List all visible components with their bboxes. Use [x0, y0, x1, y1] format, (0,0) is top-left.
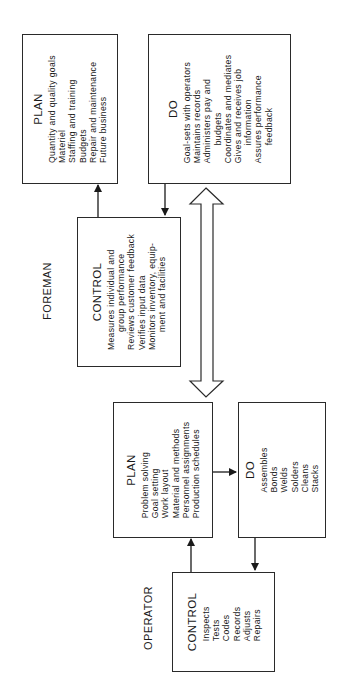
- operator-plan-items: Problem solving Goal setting Work layout…: [140, 422, 201, 519]
- foreman-plan-box: PLAN Quantity and quality goals Materiel…: [22, 34, 118, 184]
- operator-do-items: Assembles Bonds Welds Solders Cleans Sta…: [259, 447, 320, 492]
- double-block-arrow-icon: [190, 188, 223, 397]
- operator-label: OPERATOR: [142, 586, 154, 650]
- operator-plan-title: PLAN: [125, 454, 137, 485]
- foreman-plan-title: PLAN: [32, 93, 44, 124]
- foreman-control-title: CONTROL: [91, 263, 103, 321]
- operator-do-title: DO: [244, 461, 256, 479]
- foreman-do-items: Goal-sets with operators Maintains recor…: [181, 55, 273, 164]
- foreman-control-items: Measures individual and group performanc…: [106, 234, 167, 350]
- operator-control-title: CONTROL: [185, 593, 197, 651]
- operator-do-box: DO Assembles Bonds Welds Solders Cleans …: [238, 402, 326, 538]
- operator-control-items: Inspects Tests Codes Records Adjusts Rep…: [200, 606, 261, 651]
- foreman-control-box: CONTROL Measures individual and group pe…: [77, 217, 181, 367]
- foreman-do-box: DO Goal-sets with operators Maintains re…: [148, 34, 291, 184]
- foreman-plan-items: Quantity and quality goals Materiel Staf…: [47, 55, 108, 163]
- foreman-label: FOREMAN: [41, 262, 53, 320]
- operator-control-box: CONTROL Inspects Tests Codes Records Adj…: [172, 572, 275, 672]
- operator-plan-box: PLAN Problem solving Goal setting Work l…: [113, 402, 213, 538]
- foreman-do-title: DO: [166, 100, 178, 118]
